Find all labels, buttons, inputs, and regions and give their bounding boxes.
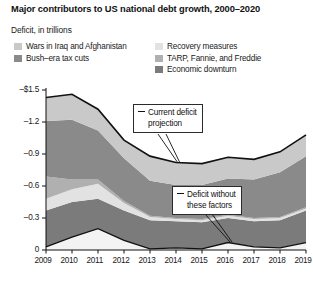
x-axis-label-2014: 2014 (165, 256, 182, 265)
legend-label-recovery: Recovery measures (167, 42, 237, 51)
legend-column-right: Recovery measures TARP, Fannie, and Fred… (155, 41, 261, 76)
legend-swatch-downturn (155, 66, 163, 73)
y-axis-label-2: –0.6 (1, 181, 39, 190)
annotation-deficit-without: Deficit without these factors (172, 186, 242, 215)
legend-label-tarp: TARP, Fannie, and Freddie (167, 54, 261, 63)
x-axis-label-2018: 2018 (269, 256, 286, 265)
y-axis-label-0: 0 (1, 245, 39, 254)
annotation-without-line2: these factors (177, 201, 236, 212)
legend-swatch-recovery (155, 43, 163, 50)
legend-swatch-tarp (155, 55, 163, 62)
annotation-dash-icon-2 (177, 193, 184, 194)
y-axis-label-3: –0.9 (1, 149, 39, 158)
annotation-dash-icon (138, 111, 145, 112)
y-axis-label-1: –0.3 (1, 213, 39, 222)
legend-column-left: Wars in Iraq and Afghanistan Bush–era ta… (14, 41, 127, 64)
x-axis-label-2019: 2019 (295, 256, 312, 265)
annotation-current-line1: Current deficit (138, 108, 197, 119)
x-axis-label-2013: 2013 (139, 256, 156, 265)
chart-title: Major contributors to US national debt g… (11, 4, 306, 15)
legend-label-wars: Wars in Iraq and Afghanistan (26, 42, 127, 51)
x-axis-label-2012: 2012 (113, 256, 130, 265)
annotation-current-deficit: Current deficit projection (133, 104, 203, 133)
legend-item-tax-cuts: Bush–era tax cuts (14, 53, 127, 64)
x-axis-label-2011: 2011 (87, 256, 103, 265)
annotation-current-line2: projection (138, 119, 197, 130)
y-axis-label-5: –$1.5 (1, 85, 39, 94)
x-axis-label-2016: 2016 (217, 256, 234, 265)
legend-swatch-wars (14, 43, 22, 50)
legend-swatch-tax-cuts (14, 55, 22, 62)
legend-item-downturn: Economic downturn (155, 64, 261, 75)
y-axis-label-4: –1.2 (1, 117, 39, 126)
legend-item-tarp: TARP, Fannie, and Freddie (155, 53, 261, 64)
x-axis-label-2009: 2009 (35, 256, 52, 265)
x-axis-label-2015: 2015 (191, 256, 208, 265)
legend-label-tax-cuts: Bush–era tax cuts (26, 54, 89, 63)
legend-item-wars: Wars in Iraq and Afghanistan (14, 41, 127, 52)
annotation-without-line1: Deficit without (177, 190, 236, 201)
x-axis-label-2010: 2010 (61, 256, 78, 265)
legend-item-recovery: Recovery measures (155, 41, 261, 52)
chart-subtitle: Deficit, in trillions (11, 25, 72, 35)
legend-label-downturn: Economic downturn (167, 65, 236, 74)
chart-page: Major contributors to US national debt g… (0, 0, 313, 285)
x-axis-label-2017: 2017 (243, 256, 260, 265)
